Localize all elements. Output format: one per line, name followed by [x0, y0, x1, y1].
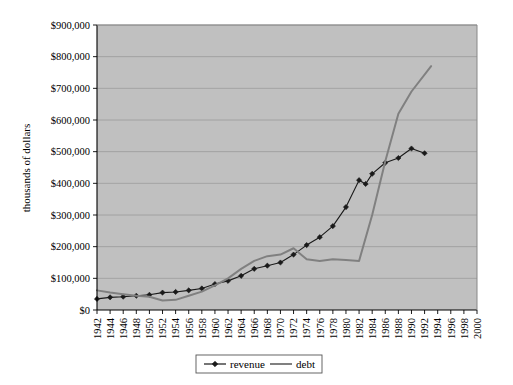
- y-tick-label: $300,000: [51, 210, 90, 221]
- x-tick-label: 1982: [354, 318, 365, 339]
- plot-area-background: [97, 25, 477, 310]
- legend-label-revenue: revenue: [230, 358, 265, 370]
- x-tick-label: 1972: [288, 318, 299, 339]
- x-tick-label: 1962: [223, 318, 234, 339]
- x-tick-label: 1992: [419, 318, 430, 339]
- y-axis-title: thousands of dollars: [20, 124, 32, 213]
- legend-label-debt: debt: [296, 358, 315, 370]
- y-tick-label: $900,000: [51, 20, 90, 31]
- y-tick-label: $700,000: [51, 83, 90, 94]
- x-tick-label: 1958: [197, 318, 208, 339]
- x-tick-label: 1988: [393, 318, 404, 339]
- x-tick-label: 1964: [236, 317, 247, 339]
- x-tick-label: 1994: [432, 317, 443, 339]
- chart-container: $0$100,000$200,000$300,000$400,000$500,0…: [0, 0, 513, 385]
- x-tick-label: 1984: [367, 317, 378, 339]
- chart-legend: revenuedebt: [196, 355, 322, 373]
- x-tick-label: 1952: [157, 318, 168, 339]
- y-tick-label: $100,000: [51, 273, 90, 284]
- x-tick-label: 1956: [184, 318, 195, 339]
- x-tick-label: 1944: [105, 317, 116, 339]
- y-tick-label: $500,000: [51, 146, 90, 157]
- x-tick-label: 2000: [472, 318, 483, 339]
- x-tick-label: 1996: [446, 318, 457, 339]
- x-tick-label: 1970: [275, 318, 286, 339]
- x-tick-label: 1950: [144, 318, 155, 339]
- x-tick-label: 1942: [92, 318, 103, 339]
- y-tick-label: $600,000: [51, 115, 90, 126]
- x-tick-label: 1968: [262, 318, 273, 339]
- x-tick-label: 1976: [315, 318, 326, 339]
- x-tick-label: 1960: [210, 318, 221, 339]
- y-tick-label: $0: [80, 305, 91, 316]
- x-tick-label: 1974: [301, 317, 312, 339]
- y-tick-label: $800,000: [51, 51, 90, 62]
- x-tick-label: 1980: [341, 318, 352, 339]
- x-tick-label: 1986: [380, 318, 391, 339]
- x-tick-label: 1978: [328, 318, 339, 339]
- x-tick-label: 1998: [459, 318, 470, 339]
- x-tick-label: 1946: [118, 318, 129, 339]
- y-tick-label: $200,000: [51, 241, 90, 252]
- y-tick-label: $400,000: [51, 178, 90, 189]
- x-tick-label: 1948: [131, 318, 142, 339]
- x-tick-label: 1966: [249, 318, 260, 339]
- x-tick-label: 1990: [406, 318, 417, 339]
- x-tick-label: 1954: [170, 317, 181, 339]
- line-chart: $0$100,000$200,000$300,000$400,000$500,0…: [0, 0, 513, 385]
